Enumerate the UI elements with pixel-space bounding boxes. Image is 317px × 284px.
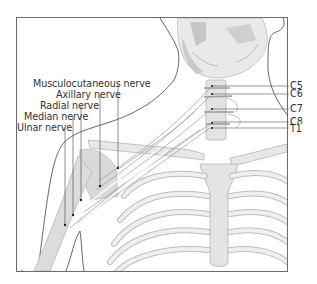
label-t1: T1: [289, 124, 302, 134]
brachial-plexus-figure: Musculocutaneous nerve Axillary nerve Ra…: [0, 0, 317, 284]
label-median-nerve: Median nerve: [24, 111, 88, 122]
figure-frame: [16, 17, 288, 272]
label-c7: C7: [289, 104, 303, 114]
label-radial-nerve: Radial nerve: [40, 100, 99, 111]
label-musculocutaneous-nerve: Musculocutaneous nerve: [33, 78, 151, 89]
label-ulnar-nerve: Ulnar nerve: [17, 122, 72, 133]
label-axillary-nerve: Axillary nerve: [56, 89, 121, 100]
label-c6: C6: [289, 89, 303, 99]
